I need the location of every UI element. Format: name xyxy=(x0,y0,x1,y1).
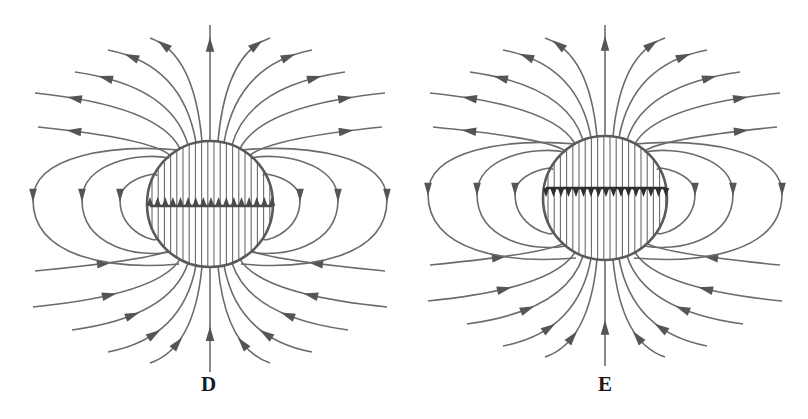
arrowhead-icon xyxy=(231,197,238,206)
field-line xyxy=(108,50,196,143)
arrowhead-icon xyxy=(125,54,140,64)
arrowhead-icon xyxy=(655,324,670,336)
arrowhead-icon xyxy=(729,183,737,196)
arrowhead-icon xyxy=(462,95,477,104)
arrowhead-icon xyxy=(655,188,662,197)
arrowhead-icon xyxy=(588,188,595,197)
arrowhead-icon xyxy=(496,286,511,294)
arrowhead-icon xyxy=(78,189,86,202)
arrowhead-icon xyxy=(601,36,610,51)
arrowhead-icon xyxy=(280,54,295,64)
field-line xyxy=(224,50,312,143)
field-line xyxy=(503,50,591,138)
arrowhead-icon xyxy=(146,330,161,342)
arrowhead-icon xyxy=(206,37,215,52)
panel-d-diagram xyxy=(29,25,391,372)
field-line xyxy=(613,38,665,137)
arrowhead-icon xyxy=(461,127,476,136)
arrowhead-icon xyxy=(98,76,113,84)
arrowhead-icon xyxy=(698,286,713,294)
arrowhead-icon xyxy=(208,197,215,206)
arrowhead-icon xyxy=(383,189,391,202)
arrowhead-icon xyxy=(424,183,432,196)
arrowhead-icon xyxy=(185,197,192,206)
sphere-outline xyxy=(543,136,667,260)
arrowhead-icon xyxy=(663,188,670,197)
arrowhead-icon xyxy=(260,330,275,342)
field-lines-figure xyxy=(0,0,808,419)
arrowhead-icon xyxy=(296,189,304,202)
arrowhead-icon xyxy=(519,306,534,315)
arrowhead-icon xyxy=(253,197,260,206)
arrowhead-icon xyxy=(303,293,318,301)
arrowhead-icon xyxy=(558,188,565,197)
field-line xyxy=(545,38,597,137)
panel-e-diagram xyxy=(424,25,786,366)
arrowhead-icon xyxy=(281,312,296,321)
arrowhead-icon xyxy=(215,197,222,206)
arrowhead-icon xyxy=(223,197,230,206)
arrowhead-icon xyxy=(306,76,321,84)
arrowhead-icon xyxy=(162,197,169,206)
arrowhead-icon xyxy=(580,188,587,197)
arrowhead-icon xyxy=(192,197,199,206)
panel-label-e: E xyxy=(598,372,612,397)
field-line xyxy=(240,259,387,307)
arrowhead-icon xyxy=(67,95,82,103)
arrowhead-icon xyxy=(701,75,716,83)
arrowhead-icon xyxy=(206,326,215,341)
panel-label-d: D xyxy=(201,372,216,397)
arrowhead-icon xyxy=(511,183,519,196)
arrowhead-icon xyxy=(334,189,342,202)
field-line xyxy=(433,127,565,151)
field-line xyxy=(645,127,777,151)
arrowhead-icon xyxy=(595,188,602,197)
arrowhead-icon xyxy=(66,128,81,137)
arrowhead-icon xyxy=(473,183,481,196)
arrowhead-icon xyxy=(541,324,556,336)
arrowhead-icon xyxy=(778,183,786,196)
arrowhead-icon xyxy=(691,183,699,196)
arrowhead-icon xyxy=(733,95,748,104)
arrowhead-icon xyxy=(676,306,691,315)
arrowhead-icon xyxy=(675,54,690,63)
arrowhead-icon xyxy=(337,95,352,103)
arrowhead-icon xyxy=(618,188,625,197)
arrowhead-icon xyxy=(573,188,580,197)
arrowhead-icon xyxy=(733,127,748,136)
arrowhead-icon xyxy=(601,320,610,335)
arrowhead-icon xyxy=(520,54,535,63)
arrowhead-icon xyxy=(493,75,508,83)
arrowhead-icon xyxy=(101,293,116,301)
arrowhead-icon xyxy=(633,188,640,197)
field-line xyxy=(33,259,180,307)
arrowhead-icon xyxy=(338,128,353,137)
arrowhead-icon xyxy=(261,197,268,206)
arrowhead-icon xyxy=(550,188,557,197)
arrowhead-icon xyxy=(124,312,139,321)
arrowhead-icon xyxy=(116,189,124,202)
arrowhead-icon xyxy=(154,197,161,206)
arrowhead-icon xyxy=(625,188,632,197)
arrowhead-icon xyxy=(29,189,37,202)
field-line xyxy=(619,50,707,138)
